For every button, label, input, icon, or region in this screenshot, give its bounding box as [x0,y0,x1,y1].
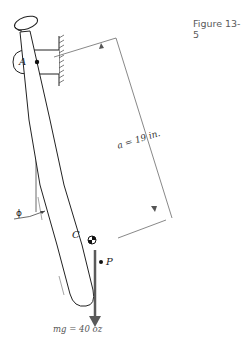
wall-support [59,35,64,86]
pivot-point-a [35,60,39,64]
label-weight: mg = 40 oz [53,324,103,334]
point-p [99,260,103,264]
label-a: A [18,56,26,67]
label-distance: a = 19 in. [116,128,162,151]
baseball-bat-diagram: A C P ϕ a = 19 in. mg = 40 oz [0,0,241,352]
label-phi: ϕ [16,208,22,218]
label-p: P [105,256,113,267]
label-c: C [72,229,80,240]
center-of-mass-symbol [88,236,96,244]
